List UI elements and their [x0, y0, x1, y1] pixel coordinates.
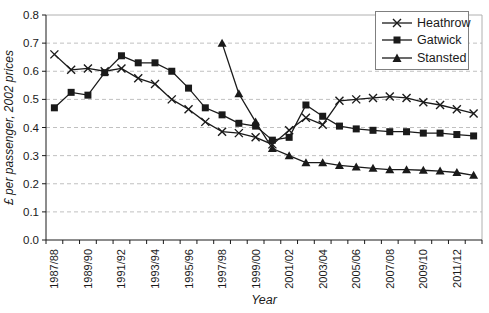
x-tick-label: 1991/92 [115, 249, 127, 289]
y-tick-label: 0.4 [23, 122, 40, 134]
data-point-x [134, 74, 142, 82]
y-tick-label: 0.1 [23, 206, 39, 218]
y-tick-label: 0.5 [23, 93, 39, 105]
y-axis-title: £ per passenger, 2002 prices [2, 50, 16, 206]
data-point-square [219, 111, 226, 118]
data-point-square [235, 120, 242, 127]
data-point-square [336, 123, 343, 130]
x-tick-label: 1989/90 [82, 249, 94, 289]
x-tick-label: 2007/08 [384, 249, 396, 289]
y-tick-label: 0.2 [23, 178, 39, 190]
data-point-square [370, 127, 377, 134]
data-point-triangle [251, 117, 260, 125]
data-point-square [353, 125, 360, 132]
x-tick-label: 1997/98 [216, 249, 228, 289]
x-tick-label: 2003/04 [317, 249, 329, 289]
x-tick-label: 1987/88 [48, 249, 60, 289]
data-point-square [386, 128, 393, 135]
data-point-square [135, 59, 142, 66]
data-point-square [420, 130, 427, 137]
data-point-square [453, 131, 460, 138]
square-marker-icon [381, 34, 413, 46]
data-point-square [302, 102, 309, 109]
x-tick-label: 2005/06 [350, 249, 362, 289]
data-point-x [151, 80, 159, 88]
data-point-square [118, 52, 125, 59]
data-point-square [470, 132, 477, 139]
data-point-square [202, 104, 209, 111]
data-point-square [286, 134, 293, 141]
data-point-square [152, 59, 159, 66]
x-tick-label: 1993/94 [149, 249, 161, 289]
data-point-x [302, 114, 310, 122]
legend-label-stansted: Stansted [417, 52, 466, 65]
x-tick-label: 2011/12 [451, 249, 463, 288]
data-point-x [453, 105, 461, 113]
data-point-x [252, 133, 260, 141]
data-point-square [84, 92, 91, 99]
axis-titles: £ per passenger, 2002 pricesYear [2, 50, 278, 307]
data-point-square [168, 68, 175, 75]
data-point-square [403, 128, 410, 135]
data-point-x [201, 118, 209, 126]
data-point-square [269, 137, 276, 144]
x-tick-label: 2001/02 [283, 249, 295, 289]
x-tick-label: 1999/00 [250, 249, 262, 289]
data-point-x [50, 50, 58, 58]
data-point-x [185, 105, 193, 113]
legend-item-gatwick: Gatwick [381, 34, 466, 47]
airport-charges-chart: 0.00.10.20.30.40.50.60.70.81987/881989/9… [0, 0, 489, 313]
x-tick-label: 1995/96 [183, 249, 195, 289]
legend-label-heathrow: Heathrow [417, 17, 471, 30]
legend-label-gatwick: Gatwick [417, 34, 461, 47]
data-point-square [319, 113, 326, 120]
y-tick-label: 0.7 [23, 37, 39, 49]
legend: Heathrow Gatwick Stansted [375, 11, 469, 70]
y-tick-label: 0.0 [23, 234, 39, 246]
data-point-square [101, 69, 108, 76]
x-axis-title: Year [251, 293, 278, 307]
y-tick-label: 0.8 [23, 9, 39, 21]
data-point-square [437, 130, 444, 137]
legend-item-heathrow: Heathrow [381, 17, 466, 30]
data-point-square [51, 104, 58, 111]
triangle-marker-icon [381, 52, 413, 64]
y-tick-labels: 0.00.10.20.30.40.50.60.70.8 [23, 9, 46, 246]
data-point-x [470, 109, 478, 117]
x-tick-label: 2009/10 [417, 249, 429, 289]
legend-item-stansted: Stansted [381, 52, 466, 65]
data-point-triangle [218, 39, 227, 47]
x-tick-labels: 1987/881989/901991/921993/941995/961997/… [46, 240, 482, 289]
data-point-square [185, 85, 192, 92]
y-tick-label: 0.3 [23, 150, 39, 162]
y-tick-label: 0.6 [23, 65, 39, 77]
data-point-square [68, 89, 75, 96]
x-marker-icon [381, 17, 413, 29]
data-point-triangle [234, 89, 243, 97]
